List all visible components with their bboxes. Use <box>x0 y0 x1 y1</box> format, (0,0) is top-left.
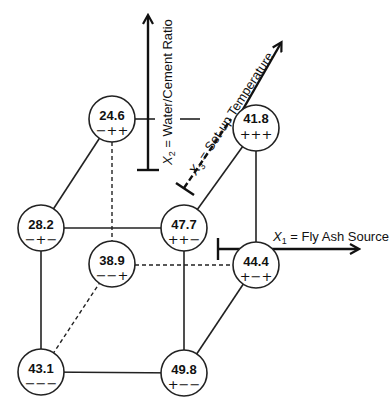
node: 24.6 −++ <box>89 96 135 142</box>
svg-text:43.1: 43.1 <box>28 361 53 376</box>
svg-text:47.7: 47.7 <box>171 217 196 232</box>
node: 41.8 +++ <box>233 105 279 151</box>
svg-text:49.8: 49.8 <box>171 362 196 377</box>
svg-text:+−−: +−− <box>168 377 201 392</box>
node: 43.1 −−− <box>18 349 64 395</box>
node: 44.4 +−+ <box>233 242 279 288</box>
x2-axis-label: X2 = Water/Cement Ratio <box>160 19 177 166</box>
svg-text:38.9: 38.9 <box>99 253 124 268</box>
svg-text:41.8: 41.8 <box>243 111 268 126</box>
x1-axis-label: X1 = Fly Ash Source <box>272 229 389 246</box>
node: 28.2 −+− <box>18 205 64 251</box>
cube-edges-hidden <box>41 142 233 372</box>
svg-text:+++: +++ <box>240 127 273 142</box>
svg-text:−−−: −−− <box>25 376 58 391</box>
x2-axis: X2 = Water/Cement Ratio <box>137 16 177 170</box>
svg-text:28.2: 28.2 <box>28 217 53 232</box>
node: 49.8 +−− <box>161 350 207 396</box>
svg-text:−+−: −+− <box>25 232 58 247</box>
node: 38.9 −−+ <box>89 241 135 287</box>
svg-text:−−+: −−+ <box>96 268 129 283</box>
svg-text:24.6: 24.6 <box>99 108 124 123</box>
factorial-cube-diagram: X2 = Water/Cement Ratio X3 = Set-up Temp… <box>0 0 392 415</box>
node: 47.7 ++− <box>161 205 207 251</box>
svg-text:44.4: 44.4 <box>243 254 269 269</box>
svg-text:−++: −++ <box>96 123 129 138</box>
svg-text:++−: ++− <box>168 232 201 247</box>
svg-text:+−+: +−+ <box>240 269 273 284</box>
